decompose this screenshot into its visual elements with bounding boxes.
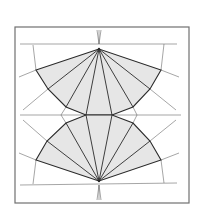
bottom-apex-point <box>98 180 100 182</box>
lower-fan <box>36 115 161 181</box>
top-apex-point <box>98 48 100 50</box>
fan-diagram <box>0 0 200 218</box>
diagram-canvas <box>0 0 200 218</box>
upper-fan <box>36 49 161 115</box>
